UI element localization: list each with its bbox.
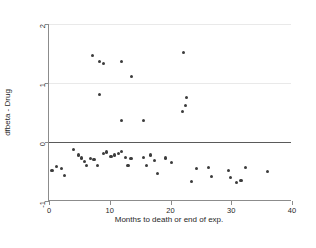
- data-point: [195, 167, 198, 170]
- data-point: [142, 156, 145, 159]
- x-axis-tick: [292, 201, 293, 205]
- data-point: [129, 157, 132, 160]
- data-point: [113, 153, 116, 156]
- x-axis-tick: [110, 201, 111, 205]
- data-point: [50, 169, 53, 172]
- data-point: [80, 156, 83, 159]
- y-axis-tick-label: 1: [39, 83, 47, 101]
- data-point: [145, 164, 148, 167]
- data-point: [60, 167, 63, 170]
- y-axis-title: dfbeta - Drug: [0, 24, 14, 200]
- data-point: [55, 165, 58, 168]
- data-point: [149, 153, 152, 156]
- data-point: [184, 104, 187, 107]
- data-point: [239, 179, 242, 182]
- x-axis-tick: [49, 201, 50, 205]
- data-point: [85, 164, 88, 167]
- data-point: [170, 161, 173, 164]
- x-axis-tick-label: 40: [280, 206, 304, 215]
- gridline-y: [49, 83, 291, 84]
- data-point: [229, 176, 232, 179]
- data-point: [156, 172, 159, 175]
- data-point: [98, 93, 101, 96]
- data-point: [120, 150, 123, 153]
- data-point: [126, 164, 129, 167]
- x-axis-tick-label: 30: [219, 206, 243, 215]
- x-axis-tick-label: 0: [37, 206, 61, 215]
- x-axis-tick-label: 10: [98, 206, 122, 215]
- data-point: [120, 119, 123, 122]
- data-point: [244, 166, 247, 169]
- y-axis-title-text: dfbeta - Drug: [3, 89, 12, 136]
- data-point: [142, 119, 145, 122]
- data-point: [120, 60, 123, 63]
- data-point: [182, 51, 185, 54]
- data-point: [98, 60, 101, 63]
- data-point: [63, 174, 66, 177]
- y-axis-tick-label: 0: [39, 142, 47, 160]
- data-point: [102, 62, 105, 65]
- data-point: [164, 156, 167, 159]
- x-axis-title: Months to death or end of exp.: [48, 215, 290, 224]
- data-point: [235, 181, 238, 184]
- data-point: [181, 110, 184, 113]
- data-point: [227, 169, 230, 172]
- data-point: [190, 180, 193, 183]
- x-axis-tick: [231, 201, 232, 205]
- data-point: [207, 166, 210, 169]
- data-point: [153, 159, 156, 162]
- data-point: [185, 96, 188, 99]
- data-point: [210, 175, 213, 178]
- x-axis-tick: [171, 201, 172, 205]
- data-point: [130, 75, 133, 78]
- gridline-y: [49, 24, 291, 25]
- chart-figure: -1012010203040 dfbeta - Drug Months to d…: [0, 0, 316, 248]
- data-point: [96, 164, 99, 167]
- data-point: [124, 156, 127, 159]
- y-axis-tick-label: 2: [39, 24, 47, 42]
- data-point: [266, 170, 269, 173]
- plot-area: -1012010203040: [48, 24, 291, 201]
- x-axis-tick-label: 20: [159, 206, 183, 215]
- data-point: [105, 150, 108, 153]
- data-point: [91, 54, 94, 57]
- data-point: [72, 148, 75, 151]
- data-point: [83, 160, 86, 163]
- data-point: [92, 158, 95, 161]
- zero-reference-line: [49, 142, 291, 143]
